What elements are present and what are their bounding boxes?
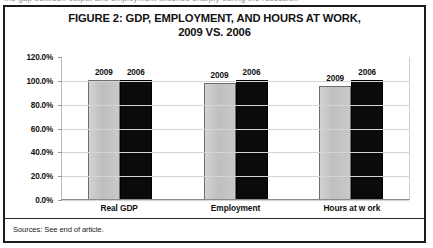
bar-series-label: 2006 — [358, 68, 376, 77]
bar-2009[interactable]: 2009 — [204, 83, 236, 199]
x-axis-category-label: Employment — [177, 203, 293, 213]
bar-2006[interactable]: 2006 — [120, 80, 152, 199]
source-divider — [5, 218, 424, 219]
y-axis-tick-mark — [58, 57, 62, 58]
figure-container: FIGURE 2: GDP, EMPLOYMENT, AND HOURS AT … — [3, 5, 426, 243]
source-note: Sources: See end of article. — [13, 225, 104, 234]
y-axis-tick-label: 120.0% — [26, 53, 53, 62]
bar-2009[interactable]: 2009 — [88, 80, 120, 199]
y-axis: 120.0%100.0%80.0%60.0%40.0%20.0%0.0% — [5, 45, 57, 213]
y-axis-tick-mark — [58, 81, 62, 82]
x-axis-category-labels: Real GDPEmploymentHours at w ork — [61, 203, 410, 213]
gridline — [62, 81, 409, 82]
plot-frame: 200920062009200620092006 — [61, 57, 410, 200]
clipped-body-text: the gap between output and employment wi… — [4, 0, 298, 3]
y-axis-tick-label: 20.0% — [31, 172, 53, 181]
x-axis-category-label: Hours at w ork — [294, 203, 410, 213]
bar-series-label: 2006 — [127, 68, 145, 77]
bar-series-label: 2009 — [95, 68, 113, 77]
bar-series-label: 2009 — [326, 74, 344, 83]
bar-2009[interactable]: 2009 — [319, 86, 351, 199]
x-axis-category-label: Real GDP — [61, 203, 177, 213]
figure-title-line-2: 2009 VS. 2006 — [19, 26, 410, 40]
gridline — [62, 129, 409, 130]
bar-series-label: 2006 — [243, 68, 261, 77]
y-axis-tick-mark — [58, 152, 62, 153]
y-axis-tick-label: 100.0% — [26, 76, 53, 85]
gridline — [62, 200, 409, 201]
figure-title: FIGURE 2: GDP, EMPLOYMENT, AND HOURS AT … — [19, 12, 410, 39]
y-axis-tick-mark — [58, 105, 62, 106]
y-axis-tick-label: 60.0% — [31, 124, 53, 133]
gridline — [62, 105, 409, 106]
y-axis-tick-label: 80.0% — [31, 100, 53, 109]
bar-2006[interactable]: 2006 — [236, 80, 268, 199]
y-axis-tick-label: 0.0% — [35, 196, 53, 205]
y-axis-tick-mark — [58, 200, 62, 201]
chart-plot-area: 120.0%100.0%80.0%60.0%40.0%20.0%0.0% 200… — [5, 45, 424, 213]
figure-title-line-1: FIGURE 2: GDP, EMPLOYMENT, AND HOURS AT … — [68, 12, 361, 24]
gridline — [62, 176, 409, 177]
gridline — [62, 152, 409, 153]
y-axis-tick-label: 40.0% — [31, 148, 53, 157]
y-axis-tick-mark — [58, 176, 62, 177]
y-axis-tick-mark — [58, 129, 62, 130]
bar-series-label: 2009 — [211, 71, 229, 80]
bar-2006[interactable]: 2006 — [351, 80, 383, 199]
